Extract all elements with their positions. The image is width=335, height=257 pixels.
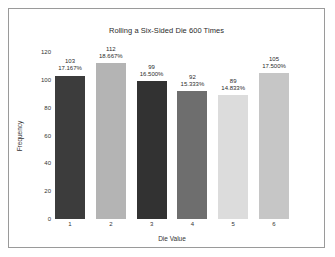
y-tick-80: 80	[44, 105, 51, 111]
chart-title: Rolling a Six-Sided Die 600 Times	[9, 26, 324, 35]
bar-group-3[interactable]: 99 16.500% 3	[137, 52, 167, 219]
bar-percent-6: 17.500%	[262, 63, 286, 70]
bar-value-6: 105	[262, 56, 286, 63]
bar-label-1: 103 17.167%	[58, 58, 82, 72]
y-tick-100: 100	[41, 77, 51, 83]
bar-group-2[interactable]: 112 18.667% 2	[96, 52, 126, 219]
bar-value-3: 99	[140, 64, 164, 71]
bar-percent-4: 15.333%	[181, 81, 205, 88]
bar-label-4: 92 15.333%	[181, 74, 205, 88]
bar-group-6[interactable]: 105 17.500% 6	[259, 52, 289, 219]
bar-value-2: 112	[99, 46, 123, 53]
bar-percent-5: 14.833%	[221, 85, 245, 92]
bar-series: 103 17.167% 1 112 18.667% 2 99 16.500%	[55, 52, 289, 219]
bar-label-3: 99 16.500%	[140, 64, 164, 78]
x-tick-6: 6	[272, 221, 275, 227]
bar-rect-6[interactable]	[259, 73, 289, 219]
y-tick-20: 20	[44, 188, 51, 194]
y-tick-0: 0	[48, 216, 51, 222]
chart-figure: Rolling a Six-Sided Die 600 Times Freque…	[8, 8, 325, 248]
y-axis-label: Frequency	[16, 120, 23, 151]
bar-label-6: 105 17.500%	[262, 56, 286, 70]
bar-percent-3: 16.500%	[140, 71, 164, 78]
y-tick-40: 40	[44, 160, 51, 166]
x-tick-2: 2	[109, 221, 112, 227]
bar-value-5: 89	[221, 78, 245, 85]
bar-percent-1: 17.167%	[58, 65, 82, 72]
x-tick-4: 4	[191, 221, 194, 227]
bar-rect-3[interactable]	[137, 81, 167, 219]
bar-percent-2: 18.667%	[99, 53, 123, 60]
x-tick-5: 5	[232, 221, 235, 227]
plot-area: Frequency 0 20 40 60 80 100 120 103 17.1…	[55, 52, 289, 219]
y-tick-120: 120	[41, 49, 51, 55]
bar-group-5[interactable]: 89 14.833% 5	[218, 52, 248, 219]
bar-label-5: 89 14.833%	[221, 78, 245, 92]
bar-group-4[interactable]: 92 15.333% 4	[177, 52, 207, 219]
x-tick-1: 1	[68, 221, 71, 227]
x-tick-3: 3	[150, 221, 153, 227]
bar-rect-4[interactable]	[177, 91, 207, 219]
bar-rect-5[interactable]	[218, 95, 248, 219]
x-axis-label: Die Value	[55, 235, 289, 242]
bar-group-1[interactable]: 103 17.167% 1	[55, 52, 85, 219]
bar-rect-1[interactable]	[55, 76, 85, 219]
y-tick-60: 60	[44, 133, 51, 139]
bar-value-4: 92	[181, 74, 205, 81]
bar-rect-2[interactable]	[96, 63, 126, 219]
bar-value-1: 103	[58, 58, 82, 65]
bar-label-2: 112 18.667%	[99, 46, 123, 60]
